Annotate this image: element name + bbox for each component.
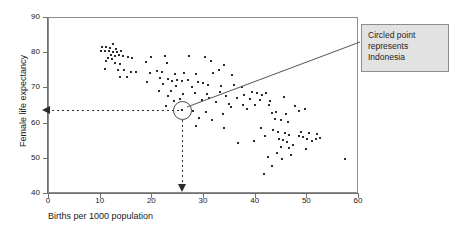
data-point <box>146 81 148 83</box>
x-tick-label: 40 <box>242 197 268 205</box>
data-point <box>120 50 122 52</box>
y-tick-label: 40 <box>18 189 40 197</box>
data-point <box>290 154 292 156</box>
data-point <box>182 93 184 95</box>
data-point <box>173 100 175 102</box>
callout-line-3: Indonesia <box>368 52 442 63</box>
data-point <box>231 74 233 76</box>
data-point <box>201 99 203 101</box>
x-tick-label: 0 <box>35 197 61 205</box>
data-point <box>280 146 282 148</box>
data-point <box>298 110 300 112</box>
data-point <box>192 110 194 112</box>
data-point <box>123 69 125 71</box>
data-point <box>223 64 225 66</box>
data-point <box>288 147 290 149</box>
data-point <box>275 111 277 113</box>
data-point <box>110 54 112 56</box>
x-tick-label: 60 <box>345 197 371 205</box>
data-point <box>233 84 235 86</box>
data-point <box>211 119 213 121</box>
data-point <box>237 142 239 144</box>
data-point <box>150 56 152 58</box>
data-point <box>236 97 238 99</box>
data-point <box>298 135 300 137</box>
data-point <box>156 70 158 72</box>
data-point <box>271 165 273 167</box>
data-point <box>101 46 103 48</box>
data-point <box>344 158 346 160</box>
data-point <box>225 95 227 97</box>
data-point <box>253 140 255 142</box>
data-point <box>158 90 160 92</box>
data-point <box>188 55 190 57</box>
data-point <box>100 50 102 52</box>
data-point <box>187 79 189 81</box>
data-point <box>269 100 271 102</box>
data-point <box>202 82 204 84</box>
y-tick-label: 90 <box>18 13 40 21</box>
data-point <box>283 96 285 98</box>
data-point <box>204 56 206 58</box>
data-point <box>254 104 256 106</box>
data-point <box>287 121 289 123</box>
data-point <box>131 57 133 59</box>
data-point <box>302 136 304 138</box>
data-point <box>319 137 321 139</box>
data-point <box>114 62 116 64</box>
data-point <box>271 112 273 114</box>
vertical-guide-arrowhead <box>178 184 186 192</box>
data-point <box>315 138 317 140</box>
data-point <box>267 156 269 158</box>
data-point <box>174 73 176 75</box>
data-point <box>251 91 253 93</box>
data-point <box>243 94 245 96</box>
data-point <box>108 50 110 52</box>
data-point <box>112 51 114 53</box>
data-point <box>195 73 197 75</box>
data-point <box>109 47 111 49</box>
data-point <box>116 51 118 53</box>
x-tick-label: 10 <box>87 197 113 205</box>
data-point <box>223 127 225 129</box>
data-point <box>265 92 267 94</box>
x-tick-label: 30 <box>190 197 216 205</box>
data-point <box>197 81 199 83</box>
data-point <box>306 138 308 140</box>
data-point <box>261 94 263 96</box>
y-axis-title: Female life expectancy <box>18 26 28 176</box>
data-point <box>280 119 282 121</box>
data-point <box>305 148 307 150</box>
callout-annotation: Circled point represents Indonesia <box>361 24 449 72</box>
data-point <box>114 55 116 57</box>
data-point <box>149 72 151 74</box>
x-axis-title: Births per 1000 population <box>48 211 153 221</box>
data-point <box>179 98 181 100</box>
callout-line-2: represents <box>368 41 442 52</box>
plot-area <box>48 17 358 193</box>
data-point <box>242 104 244 106</box>
data-point <box>241 86 243 88</box>
data-point <box>292 144 294 146</box>
data-point <box>171 80 173 82</box>
data-point <box>198 117 200 119</box>
y-tick <box>43 87 48 88</box>
data-point <box>126 76 128 78</box>
data-point <box>127 56 129 58</box>
callout-line-1: Circled point <box>368 30 442 41</box>
y-tick <box>43 17 48 18</box>
data-point <box>212 72 214 74</box>
data-point <box>170 90 172 92</box>
data-point <box>256 92 258 94</box>
data-point <box>112 43 114 45</box>
data-point <box>206 93 208 95</box>
data-point <box>284 132 286 134</box>
data-point <box>104 68 106 70</box>
data-point <box>135 71 137 73</box>
horizontal-guide-line <box>52 110 182 111</box>
data-point <box>122 55 124 57</box>
data-point <box>105 46 107 48</box>
data-point <box>107 57 109 59</box>
data-point <box>195 125 197 127</box>
data-point <box>316 133 318 135</box>
